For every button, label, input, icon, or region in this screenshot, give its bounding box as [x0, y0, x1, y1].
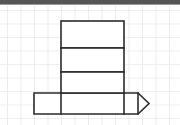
figure-canvas: [0, 0, 180, 125]
base-bar-with-pointed-cap: [34, 93, 149, 114]
top-block: [61, 21, 124, 48]
lower-block: [61, 72, 124, 93]
middle-block: [61, 48, 124, 72]
screenshot-root: [0, 0, 180, 125]
